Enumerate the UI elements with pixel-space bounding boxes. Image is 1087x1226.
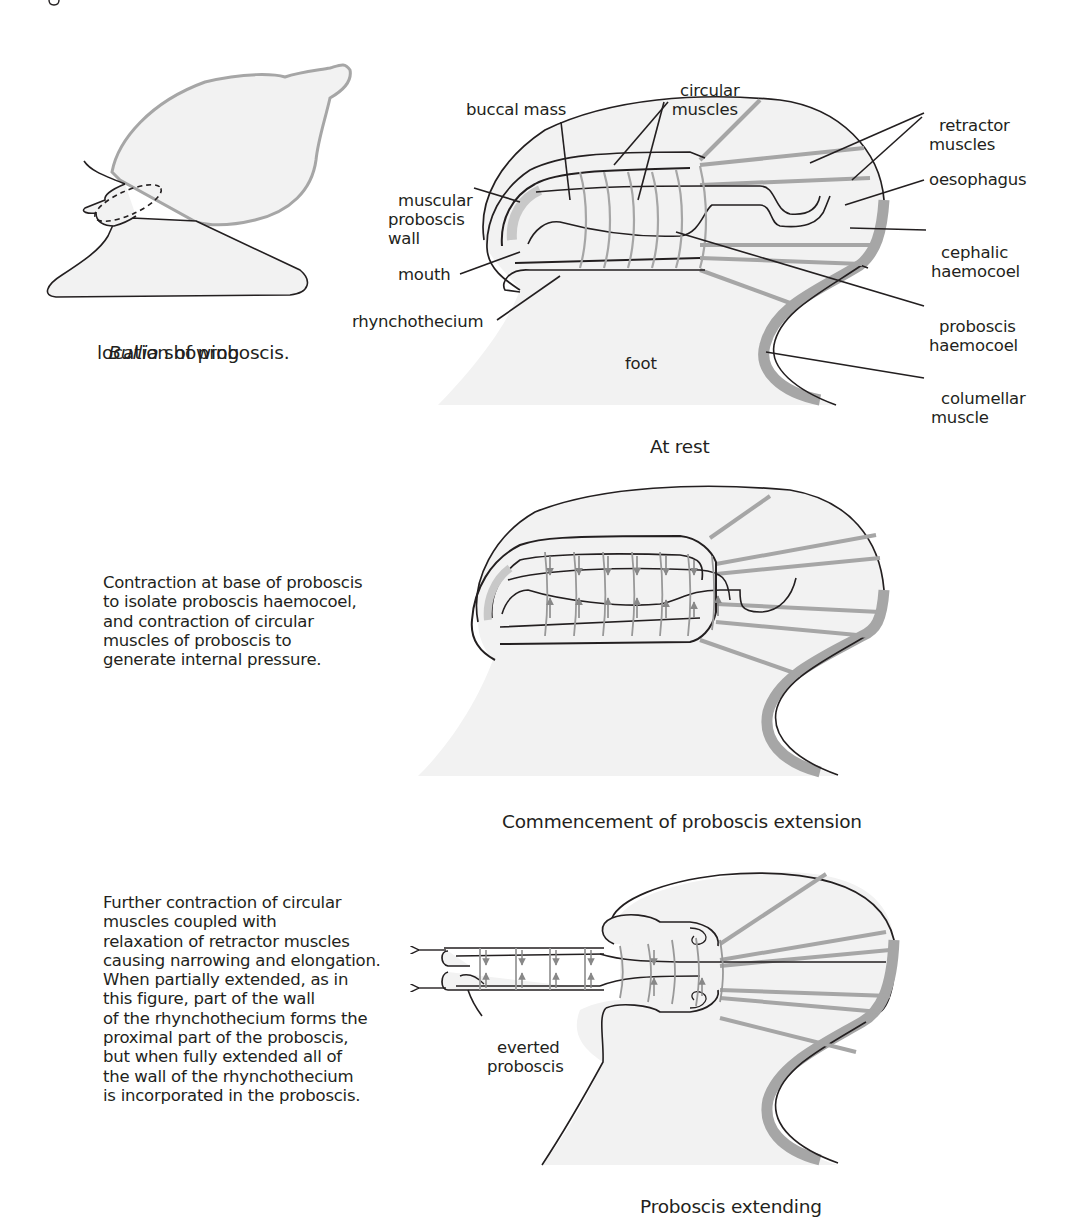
bullia-whole-animal-drawing bbox=[47, 65, 350, 297]
inset-caption-line2: location of proboscis. bbox=[97, 342, 289, 364]
label-foot: foot bbox=[625, 354, 657, 373]
label-columellar-muscle: columellarmuscle bbox=[931, 370, 1026, 427]
foot-outline bbox=[47, 218, 307, 297]
at-rest-drawing bbox=[438, 97, 926, 405]
caption-extending: Proboscis extending bbox=[640, 1196, 822, 1218]
extending-description: Further contraction of circular muscles … bbox=[103, 893, 381, 1105]
label-cephalic-haemocoel: cephalichaemocoel bbox=[931, 224, 1020, 281]
label-mouth: mouth bbox=[398, 265, 451, 284]
label-buccal-mass: buccal mass bbox=[466, 100, 566, 119]
label-rhynchothecium: rhynchothecium bbox=[352, 312, 483, 331]
caption-commencement: Commencement of proboscis extension bbox=[502, 811, 862, 833]
label-proboscis-haemocoel: proboscishaemocoel bbox=[929, 298, 1018, 355]
shell-outline bbox=[112, 65, 350, 225]
label-muscular-proboscis-wall: muscularprobosciswall bbox=[388, 172, 473, 248]
commencement-description: Contraction at base of proboscis to isol… bbox=[103, 573, 362, 669]
caption-at-rest: At rest bbox=[650, 436, 710, 458]
label-retractor-muscles: retractormuscles bbox=[929, 97, 1010, 154]
label-everted-proboscis: evertedproboscis bbox=[487, 1019, 564, 1076]
clipped-heading-fragment bbox=[49, 0, 59, 5]
label-circular-muscles: circularmuscles bbox=[670, 62, 740, 119]
label-oesophagus: oesophagus bbox=[929, 170, 1027, 189]
commencement-drawing bbox=[418, 486, 884, 776]
